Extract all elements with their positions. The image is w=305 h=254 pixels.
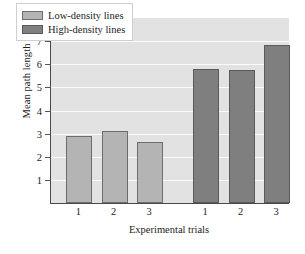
legend-item: Low-density lines xyxy=(22,8,125,22)
y-axis-tick-labels: 12345678 xyxy=(26,18,42,203)
bar xyxy=(137,142,163,203)
bar-chart-figure: Mean path length (cm) 12345678 Low-densi… xyxy=(0,0,305,254)
bar xyxy=(193,69,219,203)
legend-item: High-density lines xyxy=(22,22,125,36)
x-axis-tick-labels: 123123 xyxy=(50,206,288,221)
legend: Low-density linesHigh-density lines xyxy=(16,3,133,41)
x-axis-tick-label: 1 xyxy=(68,206,88,217)
legend-swatch-icon xyxy=(22,11,43,20)
plot-area xyxy=(50,18,289,204)
gridline xyxy=(51,64,289,65)
y-axis-tick-label: 4 xyxy=(26,105,42,116)
x-axis-tick-label: 1 xyxy=(195,206,215,217)
y-axis-tick-label: 5 xyxy=(26,82,42,93)
y-axis-tick-label: 3 xyxy=(26,128,42,139)
gridline xyxy=(51,41,289,42)
x-axis-tick-label: 3 xyxy=(266,206,286,217)
y-axis-tick-label: 2 xyxy=(26,151,42,162)
bar xyxy=(264,45,290,203)
legend-item-label: High-density lines xyxy=(48,24,125,35)
legend-swatch-icon xyxy=(22,25,43,34)
x-axis-title: Experimental trials xyxy=(50,224,288,235)
bar xyxy=(66,136,92,203)
y-axis-tick-label: 1 xyxy=(26,174,42,185)
bar xyxy=(102,131,128,203)
x-axis-tick-label: 3 xyxy=(139,206,159,217)
bar xyxy=(229,70,255,203)
legend-item-label: Low-density lines xyxy=(48,10,124,21)
y-axis-tick-label: 6 xyxy=(26,59,42,70)
x-axis-tick-label: 2 xyxy=(231,206,251,217)
x-axis-tick-label: 2 xyxy=(104,206,124,217)
